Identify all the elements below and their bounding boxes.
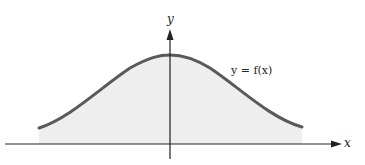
graph-canvas: [0, 0, 365, 165]
x-axis-arrow-icon: [331, 141, 342, 148]
function-graph-figure: y x y = f(x): [0, 0, 365, 165]
y-axis-arrow-icon: [167, 29, 174, 40]
curve-label: y = f(x): [231, 65, 272, 76]
y-axis-label: y: [167, 13, 174, 25]
x-axis-label: x: [344, 137, 351, 149]
